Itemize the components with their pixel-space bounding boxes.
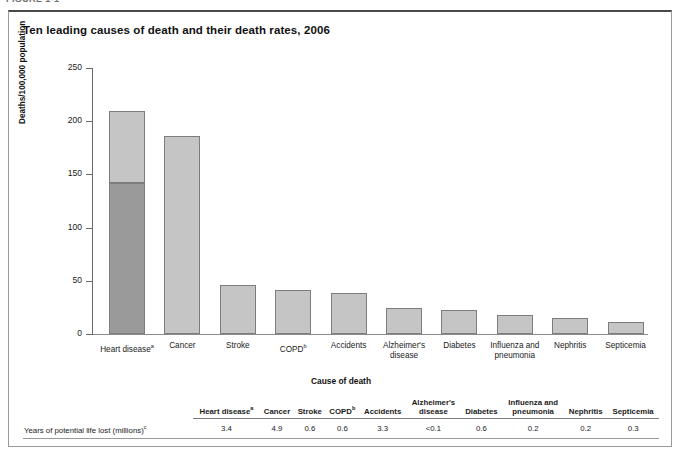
bar-cancer[interactable] xyxy=(164,68,200,334)
x-axis-label: Alzheimer'sdisease xyxy=(375,341,433,361)
table-header-line: Diabetes xyxy=(462,407,501,416)
y-tick-mark xyxy=(86,228,93,229)
footnote-marker: a xyxy=(250,405,253,411)
figure-panel: Ten leading causes of death and their de… xyxy=(8,10,672,447)
bar-nephritis[interactable] xyxy=(552,68,588,334)
bar-segment xyxy=(497,315,533,334)
table-column-header: Accidents xyxy=(359,398,406,419)
bar-accidents[interactable] xyxy=(331,68,367,334)
table-header-line: Heart diseasea xyxy=(194,404,259,416)
x-axis-label: Nephritis xyxy=(541,341,599,351)
table-header-line: COPDb xyxy=(327,404,359,416)
table-cell: 3.3 xyxy=(359,419,406,439)
table-corner-cell xyxy=(23,398,193,419)
table-row: Years of potential life lost (millions)c… xyxy=(23,419,659,439)
table-column-header: Influenza andpneumonia xyxy=(502,398,564,419)
bar-segment xyxy=(386,308,422,334)
x-axis-label-line: Heart diseasea xyxy=(98,341,156,355)
y-tick-label: 200 xyxy=(50,120,82,121)
y-tick-label: 250 xyxy=(50,67,82,68)
table-column-header: Diabetes xyxy=(461,398,502,419)
y-tick-label: 100 xyxy=(50,227,82,228)
y-tick-label: 0 xyxy=(50,333,82,334)
table-column-header: Stroke xyxy=(294,398,326,419)
x-axis-label: Cancer xyxy=(153,341,211,351)
x-axis-label-line: pneumonia xyxy=(486,351,544,361)
x-axis-title: Cause of death xyxy=(9,376,673,386)
bar-segment xyxy=(331,293,367,334)
table-cell: 0.6 xyxy=(461,419,502,439)
x-axis-label-line: COPDb xyxy=(264,341,322,355)
y-tick-mark xyxy=(86,174,93,175)
table-cell: 4.9 xyxy=(260,419,294,439)
bar-segment xyxy=(220,285,256,334)
x-axis-label: COPDb xyxy=(264,341,322,355)
x-axis-label: Diabetes xyxy=(430,341,488,351)
x-axis-label-line: Diabetes xyxy=(430,341,488,351)
bar-stroke[interactable] xyxy=(220,68,256,334)
table-header-line: Septicemia xyxy=(608,407,658,416)
table-header-line: Cancer xyxy=(261,407,293,416)
table-cell: 0.3 xyxy=(607,419,659,439)
table-header-line: pneumonia xyxy=(503,407,563,416)
table-cell: 3.4 xyxy=(193,419,260,439)
x-axis-label-line: Accidents xyxy=(320,341,378,351)
table-cell: 0.2 xyxy=(502,419,564,439)
x-axis-label: Heart diseasea xyxy=(98,341,156,355)
x-axis-label-line: Influenza and xyxy=(486,341,544,351)
x-axis-label-line: Septicemia xyxy=(597,341,655,351)
footnote-marker: c xyxy=(144,424,147,430)
x-axis-label: Influenza andpneumonia xyxy=(486,341,544,361)
figure-label: FIGURE 1-1 xyxy=(6,0,60,4)
table-column-header: COPDb xyxy=(326,398,360,419)
bar-heart-disease[interactable] xyxy=(109,68,145,334)
y-tick-mark xyxy=(86,121,93,122)
y-tick-mark xyxy=(86,68,93,69)
bar-segment xyxy=(608,322,644,334)
footnote-marker: b xyxy=(303,343,306,349)
y-tick-label: 150 xyxy=(50,173,82,174)
bar-chart: Deaths/100,000 population 05010015020025… xyxy=(9,12,673,392)
table-row-label: Years of potential life lost (millions)c xyxy=(23,419,193,439)
table-cell: <0.1 xyxy=(406,419,461,439)
bar-segment xyxy=(552,318,588,334)
table-column-header: Nephritis xyxy=(564,398,607,419)
table-header-line: disease xyxy=(407,407,460,416)
x-axis-label: Septicemia xyxy=(597,341,655,351)
x-axis-label-line: Alzheimer's xyxy=(375,341,433,351)
table-cell: 0.6 xyxy=(294,419,326,439)
bar-segment xyxy=(164,136,200,334)
bar-segment xyxy=(441,310,477,334)
table-column-header: Heart diseasea xyxy=(193,398,260,419)
x-axis-line xyxy=(92,334,648,335)
x-axis-label: Accidents xyxy=(320,341,378,351)
table-header-line: Stroke xyxy=(295,407,325,416)
bar-diabetes[interactable] xyxy=(441,68,477,334)
table-header-line: Nephritis xyxy=(565,407,606,416)
footnote-marker: b xyxy=(352,405,355,411)
table-column-header: Cancer xyxy=(260,398,294,419)
bar-segment xyxy=(275,290,311,334)
bar-septicemia[interactable] xyxy=(608,68,644,334)
bar-copd[interactable] xyxy=(275,68,311,334)
y-tick-mark xyxy=(86,334,93,335)
table-cell: 0.2 xyxy=(564,419,607,439)
bar-influenza-and-pneumonia[interactable] xyxy=(497,68,533,334)
table-header-line: Influenza and xyxy=(503,398,563,407)
table-cell: 0.6 xyxy=(326,419,360,439)
table-header-row: Heart diseaseaCancerStrokeCOPDbAccidents… xyxy=(23,398,659,419)
y-axis-line xyxy=(92,68,93,334)
data-table: Heart diseaseaCancerStrokeCOPDbAccidents… xyxy=(23,398,659,439)
x-axis-label-line: Stroke xyxy=(209,341,267,351)
bar-segment xyxy=(109,183,145,334)
x-axis-label-line: Nephritis xyxy=(541,341,599,351)
bar-alzheimer-s-disease[interactable] xyxy=(386,68,422,334)
y-tick-mark xyxy=(86,281,93,282)
x-axis-label: Stroke xyxy=(209,341,267,351)
y-tick-label: 50 xyxy=(50,280,82,281)
x-axis-label-line: Cancer xyxy=(153,341,211,351)
table-header: Heart diseaseaCancerStrokeCOPDbAccidents… xyxy=(23,398,659,419)
table-header-line: Accidents xyxy=(360,407,405,416)
table-body: Years of potential life lost (millions)c… xyxy=(23,419,659,439)
y-axis-title: Deaths/100,000 population xyxy=(18,0,27,124)
